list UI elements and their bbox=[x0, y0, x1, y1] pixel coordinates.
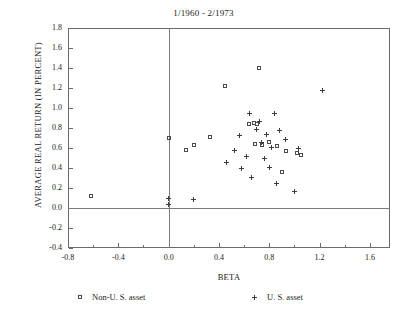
data-point-us-asset bbox=[247, 111, 252, 116]
data-point-us-asset bbox=[277, 128, 282, 133]
y-axis-tick-mark bbox=[69, 88, 73, 89]
data-point-us-asset bbox=[166, 202, 171, 207]
x-axis-tick-label: -0.4 bbox=[103, 254, 133, 262]
data-point-us-asset bbox=[292, 189, 297, 194]
x-axis-tick-mark bbox=[269, 243, 270, 248]
data-point-non-us-asset bbox=[208, 135, 212, 139]
chart-legend: Non-U. S. asset U. S. asset bbox=[0, 292, 407, 308]
data-point-us-asset bbox=[267, 165, 272, 170]
data-point-non-us-asset bbox=[284, 149, 288, 153]
data-point-us-asset bbox=[274, 181, 279, 186]
x-axis-tick-mark bbox=[320, 243, 321, 248]
y-axis-tick-mark bbox=[69, 28, 73, 29]
x-axis-tick-label: -0.8 bbox=[53, 254, 83, 262]
data-point-us-asset bbox=[320, 88, 325, 93]
y-axis-tick-label: 1.6 bbox=[36, 44, 62, 52]
data-point-non-us-asset bbox=[280, 170, 284, 174]
data-point-non-us-asset bbox=[223, 84, 227, 88]
data-point-non-us-asset bbox=[247, 122, 251, 126]
data-point-us-asset bbox=[272, 111, 277, 116]
data-point-us-asset bbox=[259, 140, 264, 145]
y-axis-tick-label: 0.0 bbox=[36, 204, 62, 212]
data-point-non-us-asset bbox=[253, 142, 257, 146]
data-point-non-us-asset bbox=[257, 66, 261, 70]
data-point-us-asset bbox=[254, 127, 259, 132]
data-point-us-asset bbox=[232, 148, 237, 153]
x-axis-minor-tick-mark bbox=[143, 245, 144, 248]
x-axis-tick-label: 1.6 bbox=[355, 254, 385, 262]
x-axis-tick-mark bbox=[370, 243, 371, 248]
data-point-us-asset bbox=[257, 119, 262, 124]
data-point-non-us-asset bbox=[299, 153, 303, 157]
data-point-us-asset bbox=[166, 196, 171, 201]
x-axis-minor-tick-mark bbox=[294, 245, 295, 248]
data-point-us-asset bbox=[296, 146, 301, 151]
data-point-non-us-asset bbox=[267, 140, 271, 144]
data-point-us-asset bbox=[239, 166, 244, 171]
legend-entry-us-asset: U. S. asset bbox=[252, 292, 303, 302]
y-axis-tick-mark bbox=[69, 248, 73, 249]
data-point-us-asset bbox=[262, 156, 267, 161]
x-axis-tick-mark bbox=[68, 243, 69, 248]
x-axis-label: BETA bbox=[68, 272, 390, 282]
x-axis-tick-label: 1.2 bbox=[305, 254, 335, 262]
chart-title: 1/1960 - 2/1973 bbox=[0, 8, 407, 18]
data-point-us-asset bbox=[264, 132, 269, 137]
data-point-us-asset bbox=[249, 175, 254, 180]
y-axis-tick-label: -0.2 bbox=[36, 224, 62, 232]
data-point-non-us-asset bbox=[89, 194, 93, 198]
data-point-non-us-asset bbox=[167, 136, 171, 140]
y-axis-tick-label: 0.2 bbox=[36, 184, 62, 192]
data-point-non-us-asset bbox=[275, 144, 279, 148]
y-axis-label-container: AVERAGE REAL RETURN (IN PERCENT) bbox=[10, 28, 30, 228]
x-axis-tick-mark bbox=[219, 243, 220, 248]
y-axis-tick-mark bbox=[69, 168, 73, 169]
data-point-us-asset bbox=[191, 197, 196, 202]
plus-marker-icon bbox=[252, 295, 257, 300]
x-axis-tick-mark bbox=[118, 243, 119, 248]
y-axis-tick-mark bbox=[69, 108, 73, 109]
y-axis-tick-label: 0.6 bbox=[36, 144, 62, 152]
y-axis-tick-label: 0.4 bbox=[36, 164, 62, 172]
x-axis-tick-label: 0.0 bbox=[154, 254, 184, 262]
x-axis-minor-tick-mark bbox=[194, 245, 195, 248]
y-axis-tick-label: 1.0 bbox=[36, 104, 62, 112]
data-point-non-us-asset bbox=[192, 143, 196, 147]
legend-label-us-asset: U. S. asset bbox=[267, 292, 303, 302]
y-axis-tick-mark bbox=[69, 128, 73, 129]
y-axis-tick-mark bbox=[69, 148, 73, 149]
data-point-us-asset bbox=[269, 145, 274, 150]
x-axis-tick-label: 0.8 bbox=[254, 254, 284, 262]
y-axis-tick-label: 0.8 bbox=[36, 124, 62, 132]
y-axis-tick-mark bbox=[69, 48, 73, 49]
legend-label-non-us-asset: Non-U. S. asset bbox=[92, 292, 145, 302]
data-point-us-asset bbox=[244, 154, 249, 159]
data-point-non-us-asset bbox=[184, 148, 188, 152]
x-axis-minor-tick-mark bbox=[345, 245, 346, 248]
y-axis-tick-label: 1.4 bbox=[36, 64, 62, 72]
x-axis-minor-tick-mark bbox=[93, 245, 94, 248]
x-axis-minor-tick-mark bbox=[244, 245, 245, 248]
y-axis-tick-mark bbox=[69, 228, 73, 229]
scatter-plot-figure: 1/1960 - 2/1973 AVERAGE REAL RETURN (IN … bbox=[0, 0, 407, 311]
y-axis-tick-mark bbox=[69, 188, 73, 189]
legend-entry-non-us-asset: Non-U. S. asset bbox=[78, 292, 145, 302]
y-axis-tick-label: 1.8 bbox=[36, 24, 62, 32]
data-point-us-asset bbox=[237, 133, 242, 138]
y-axis-tick-mark bbox=[69, 68, 73, 69]
plot-area bbox=[68, 28, 390, 248]
data-point-us-asset bbox=[283, 137, 288, 142]
x-axis-tick-label: 0.4 bbox=[204, 254, 234, 262]
y-axis-tick-label: 1.2 bbox=[36, 84, 62, 92]
y-axis-tick-label: -0.4 bbox=[36, 244, 62, 252]
square-marker-icon bbox=[78, 295, 82, 299]
data-point-us-asset bbox=[224, 160, 229, 165]
horizontal-zero-reference-line bbox=[68, 208, 390, 209]
